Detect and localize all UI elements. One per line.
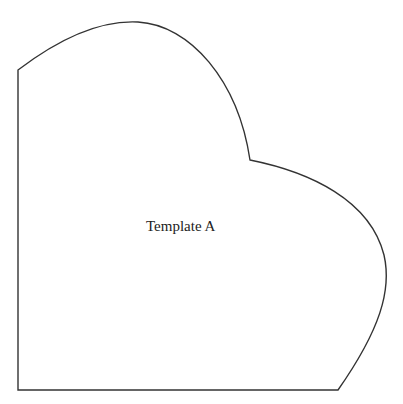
template-label: Template A	[146, 218, 215, 235]
template-outline-shape	[0, 0, 403, 404]
template-outline-path	[18, 22, 386, 390]
